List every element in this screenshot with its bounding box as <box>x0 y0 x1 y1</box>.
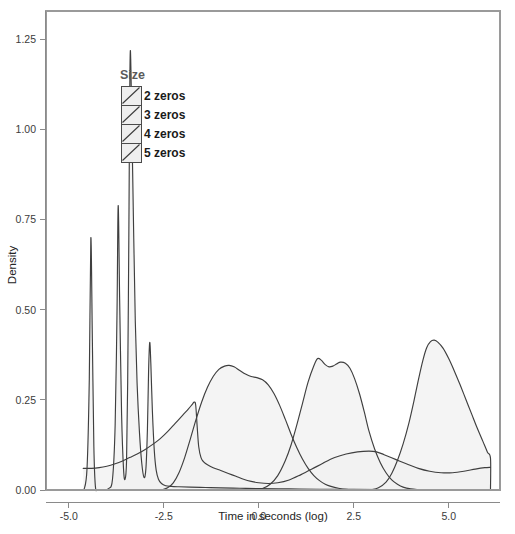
legend-label-2: 3 zeros <box>144 108 186 122</box>
legend-entry-2[interactable]: 3 zeros <box>121 105 186 124</box>
y-tick-label: 1.25 <box>16 33 37 45</box>
legend-title: Size <box>120 68 145 82</box>
legend-label-3: 4 zeros <box>144 127 186 141</box>
y-tick-label: 1.00 <box>16 123 37 135</box>
x-tick-label: 5.0 <box>441 510 456 522</box>
density-plot-figure: 0.000.250.500.751.001.25 -5.0-2.50.02.55… <box>0 0 515 534</box>
x-axis-title: Time in seconds (log) <box>218 510 328 522</box>
legend-entry-1[interactable]: 2 zeros <box>121 86 186 105</box>
legend-entry-4[interactable]: 5 zeros <box>121 143 186 162</box>
x-tick-label: -5.0 <box>60 510 78 522</box>
y-tick-label: 0.75 <box>16 213 37 225</box>
legend-entry-3[interactable]: 4 zeros <box>121 124 186 143</box>
y-tick-label: 0.50 <box>16 304 37 316</box>
y-axis-title: Density <box>6 246 18 285</box>
y-tick-label: 0.25 <box>16 394 37 406</box>
legend-label-1: 2 zeros <box>144 89 186 103</box>
chart-canvas: 0.000.250.500.751.001.25 -5.0-2.50.02.55… <box>0 0 515 534</box>
x-tick-label: 2.5 <box>346 510 361 522</box>
legend-label-4: 5 zeros <box>144 146 186 160</box>
y-tick-label: 0.00 <box>16 484 37 496</box>
y-axis: 0.000.250.500.751.001.25 <box>16 11 46 496</box>
x-tick-label: -2.5 <box>155 510 173 522</box>
